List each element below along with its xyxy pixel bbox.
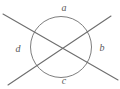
angle-label-d: d xyxy=(12,44,24,54)
angle-label-b: b xyxy=(96,43,108,53)
angle-label-c: c xyxy=(58,76,70,86)
geometry-diagram: a b c d xyxy=(0,0,120,89)
angle-label-a: a xyxy=(58,3,70,13)
